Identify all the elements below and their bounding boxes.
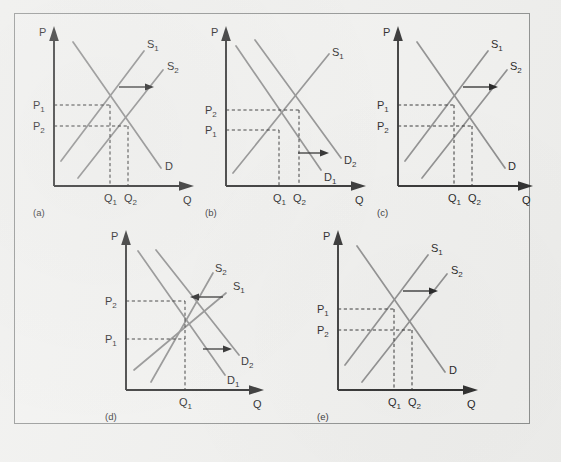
quantity-label-2-c: Q2 bbox=[468, 192, 482, 207]
quantity-label-1-c: Q1 bbox=[448, 192, 462, 207]
supply-curve-1-b bbox=[233, 54, 329, 173]
quantity-label-1-d: Q1 bbox=[179, 396, 193, 411]
quantity-label-1-a: Q1 bbox=[104, 192, 118, 207]
curve-label-s2-e: S2 bbox=[451, 264, 463, 279]
axis-label-p-e: P bbox=[323, 230, 330, 242]
price-label-1-e: P1 bbox=[317, 303, 329, 318]
panel-c: P Q S1 S2 D P1 P2 Q1 Q2 (c) bbox=[365, 18, 545, 218]
curve-label-d-c: D bbox=[508, 160, 516, 172]
demand-curve-c bbox=[417, 42, 505, 168]
price-label-1-d: P1 bbox=[105, 333, 117, 348]
quantity-label-1-e: Q1 bbox=[388, 396, 402, 411]
axes-d bbox=[121, 230, 264, 395]
axis-label-q-d: Q bbox=[253, 398, 262, 410]
curve-label-s2-c: S2 bbox=[510, 60, 522, 75]
panel-d: P Q S2 S1 D2 D1 P2 P1 Q1 (d) bbox=[93, 222, 283, 422]
curve-label-s1-d: S1 bbox=[233, 280, 245, 295]
curve-label-d1-d: D1 bbox=[227, 374, 240, 389]
quantity-label-2-a: Q2 bbox=[124, 192, 138, 207]
demand-curve-2-b bbox=[255, 40, 341, 158]
supply-curve-2-d bbox=[151, 273, 213, 382]
panel-b: P Q S1 D2 D1 P2 P1 Q1 Q2 (b) bbox=[193, 18, 373, 218]
curve-label-s2-d: S2 bbox=[215, 262, 227, 277]
curve-label-s1-c: S1 bbox=[491, 38, 503, 53]
panel-letter-b: (b) bbox=[205, 207, 217, 218]
panel-letter-e: (e) bbox=[317, 411, 329, 422]
axis-label-q-e: Q bbox=[467, 398, 476, 410]
axes-b bbox=[221, 26, 366, 191]
panel-a: P Q S1 S2 D P1 P2 Q1 Q2 (a) bbox=[21, 18, 201, 218]
supply-curve-1-c bbox=[405, 51, 488, 161]
axis-label-q-c: Q bbox=[522, 194, 531, 206]
curve-label-d2-b: D2 bbox=[344, 154, 357, 169]
axis-label-q-a: Q bbox=[183, 194, 192, 206]
figure-frame: P Q S1 S2 D P1 P2 Q1 Q2 (a) bbox=[14, 13, 530, 424]
shift-arrow-demand-d bbox=[203, 346, 232, 353]
shift-arrow-b bbox=[298, 150, 329, 157]
panel-letter-c: (c) bbox=[377, 207, 388, 218]
supply-curve-1-e bbox=[345, 255, 428, 365]
curve-label-d1-b: D1 bbox=[324, 171, 337, 186]
price-label-2-d: P2 bbox=[105, 295, 117, 310]
curve-label-d-e: D bbox=[449, 364, 457, 376]
price-label-2-c: P2 bbox=[377, 120, 389, 135]
curve-label-s1-a: S1 bbox=[147, 38, 159, 53]
price-label-2-b: P2 bbox=[205, 104, 217, 119]
quantity-label-2-b: Q2 bbox=[293, 192, 307, 207]
quantity-label-2-e: Q2 bbox=[408, 396, 422, 411]
quantity-label-1-b: Q1 bbox=[273, 192, 287, 207]
axis-label-p-a: P bbox=[39, 26, 46, 38]
panel-e: P Q S1 S2 D P1 P2 Q1 Q2 (e) bbox=[305, 222, 495, 422]
axis-label-p-b: P bbox=[211, 26, 218, 38]
curve-label-d-a: D bbox=[165, 160, 173, 172]
curve-label-d2-d: D2 bbox=[241, 355, 254, 370]
demand-curve-1-b bbox=[236, 46, 321, 170]
price-label-1-b: P1 bbox=[205, 124, 217, 139]
price-label-1-c: P1 bbox=[377, 99, 389, 114]
axis-label-p-d: P bbox=[111, 230, 118, 242]
panel-letter-d: (d) bbox=[105, 411, 117, 422]
price-label-2-e: P2 bbox=[317, 324, 329, 339]
curve-label-s2-a: S2 bbox=[167, 60, 179, 75]
axis-label-q-b: Q bbox=[355, 194, 364, 206]
panel-letter-a: (a) bbox=[33, 207, 45, 218]
curve-label-s1-b: S1 bbox=[332, 46, 344, 61]
price-label-1-a: P1 bbox=[33, 99, 45, 114]
supply-curve-1-a bbox=[61, 51, 144, 161]
demand-curve-e bbox=[357, 246, 445, 372]
curve-label-s1-e: S1 bbox=[431, 242, 443, 257]
price-label-2-a: P2 bbox=[33, 120, 45, 135]
axis-label-p-c: P bbox=[383, 26, 390, 38]
